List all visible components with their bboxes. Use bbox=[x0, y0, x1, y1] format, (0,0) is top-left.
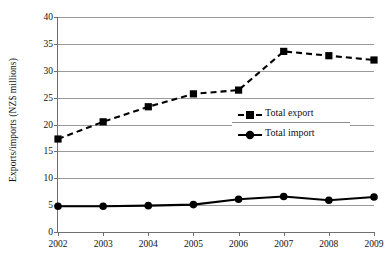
gridline-0 bbox=[58, 232, 374, 233]
x-tick-label-2005: 2005 bbox=[184, 239, 203, 249]
x-tick-mark-2005 bbox=[193, 232, 194, 236]
data-point-total-export-2002 bbox=[54, 135, 61, 142]
data-point-total-import-2006 bbox=[235, 195, 243, 203]
data-point-total-export-2004 bbox=[145, 103, 152, 110]
y-tick-label-25: 25 bbox=[44, 93, 54, 103]
x-tick-mark-2008 bbox=[329, 232, 330, 236]
legend-label-total-export: Total export bbox=[263, 107, 313, 118]
y-tick-label-0: 0 bbox=[48, 227, 53, 237]
y-tick-label-35: 35 bbox=[44, 39, 54, 49]
data-point-total-import-2009 bbox=[370, 193, 378, 201]
y-tick-label-5: 5 bbox=[48, 200, 53, 210]
data-point-total-export-2003 bbox=[100, 118, 107, 125]
data-point-total-import-2004 bbox=[144, 202, 152, 210]
y-axis-title-label: Exports/imports (NZ$ millions) bbox=[8, 58, 18, 182]
exports-imports-line-chart: Exports/imports (NZ$ millions) 051015202… bbox=[0, 0, 390, 261]
data-point-total-export-2006 bbox=[235, 87, 242, 94]
data-point-total-import-2008 bbox=[325, 196, 333, 204]
data-point-total-import-2003 bbox=[99, 202, 107, 210]
x-tick-mark-2002 bbox=[58, 232, 59, 236]
x-tick-mark-2006 bbox=[239, 232, 240, 236]
x-tick-label-2009: 2009 bbox=[365, 239, 384, 249]
x-tick-mark-2003 bbox=[103, 232, 104, 236]
data-point-total-export-2008 bbox=[325, 52, 332, 59]
x-tick-label-2008: 2008 bbox=[319, 239, 338, 249]
data-point-total-export-2005 bbox=[190, 90, 197, 97]
data-point-total-export-2009 bbox=[370, 56, 377, 63]
x-tick-label-2006: 2006 bbox=[229, 239, 248, 249]
square-marker-icon bbox=[237, 107, 263, 119]
y-axis-title: Exports/imports (NZ$ millions) bbox=[0, 0, 26, 240]
x-tick-mark-2007 bbox=[284, 232, 285, 236]
x-tick-label-2007: 2007 bbox=[274, 239, 293, 249]
y-tick-label-40: 40 bbox=[44, 12, 54, 22]
x-tick-label-2004: 2004 bbox=[139, 239, 158, 249]
data-point-total-import-2002 bbox=[54, 202, 62, 210]
data-point-total-export-2007 bbox=[280, 48, 287, 55]
x-tick-label-2003: 2003 bbox=[94, 239, 113, 249]
data-point-total-import-2005 bbox=[190, 201, 198, 209]
data-point-total-import-2007 bbox=[280, 193, 288, 201]
y-tick-label-15: 15 bbox=[44, 146, 54, 156]
series-total-import bbox=[54, 193, 378, 210]
circle-marker-icon bbox=[237, 127, 263, 139]
chart-legend: Total export Total import bbox=[232, 103, 350, 142]
x-tick-mark-2004 bbox=[148, 232, 149, 236]
y-tick-label-10: 10 bbox=[44, 173, 54, 183]
legend-item-total-import[interactable]: Total import bbox=[232, 122, 350, 142]
x-tick-mark-2009 bbox=[374, 232, 375, 236]
y-tick-label-30: 30 bbox=[44, 66, 54, 76]
x-tick-label-2002: 2002 bbox=[49, 239, 68, 249]
y-tick-label-20: 20 bbox=[44, 120, 54, 130]
legend-item-total-export[interactable]: Total export bbox=[232, 103, 350, 122]
legend-label-total-import: Total import bbox=[263, 127, 315, 138]
